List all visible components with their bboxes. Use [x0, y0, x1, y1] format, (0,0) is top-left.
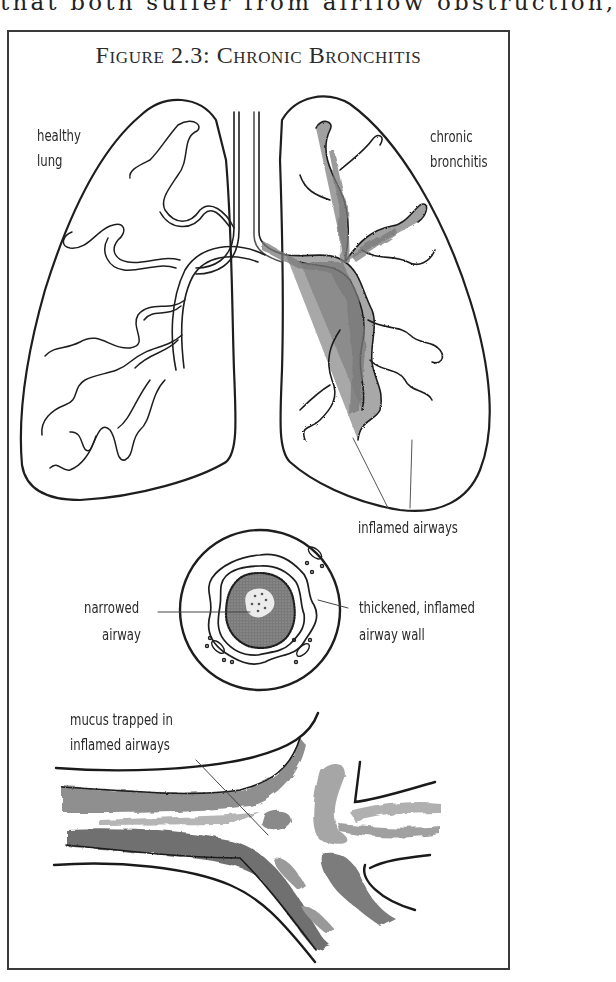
label-healthy-lung-line1: healthy	[37, 126, 81, 146]
label-healthy-lung-line2: lung	[37, 151, 63, 171]
label-thickened-wall-line1: thickened, inflamed	[359, 598, 475, 618]
label-narrowed-airway-line2: airway	[102, 625, 141, 645]
label-narrowed-airway-line1: narrowed	[84, 598, 139, 618]
lungs-panel	[21, 97, 490, 511]
label-chronic-bronchitis-line1: chronic	[430, 127, 473, 147]
label-mucus-line2: inflamed airways	[70, 735, 170, 755]
airway-cross-section	[158, 530, 348, 690]
label-mucus-line1: mucus trapped in	[70, 710, 173, 730]
label-chronic-bronchitis-line2: bronchitis	[430, 152, 488, 172]
label-thickened-wall-line2: airway wall	[359, 625, 425, 645]
label-inflamed-airways: inflamed airways	[358, 518, 458, 538]
